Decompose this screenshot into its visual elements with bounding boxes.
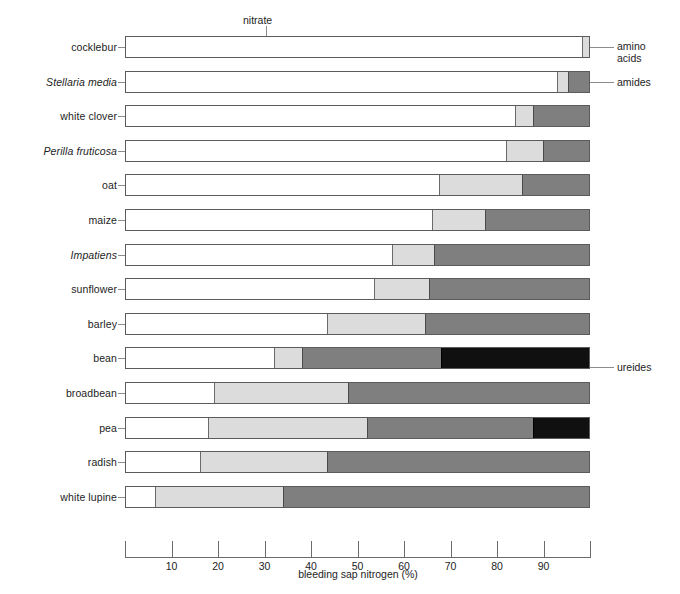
annotation-ureides-leader-line (590, 367, 614, 368)
stacked-bar (125, 244, 590, 266)
annotation-amides-label: amides (617, 76, 651, 88)
bar-segment-amides (434, 245, 589, 265)
bar-segment-nitrate (126, 37, 582, 57)
category-leader-line (118, 151, 125, 152)
bar-segment-amides (543, 141, 589, 161)
bar-segment-nitrate (126, 141, 506, 161)
bar-segment-nitrate (126, 452, 200, 472)
category-leader-line (118, 462, 125, 463)
chart-figure: nitrate amino acids amides ureides cockl… (0, 0, 680, 594)
category-label: maize (88, 214, 117, 226)
bar-segment-amino-acids (200, 452, 327, 472)
category-label: Stellaria media (46, 76, 117, 88)
category-leader-line (118, 116, 125, 117)
bar-segment-amides (522, 175, 589, 195)
category-leader-line (118, 289, 125, 290)
annotation-amino-acids-label: amino acids (617, 40, 646, 64)
bar-segment-nitrate (126, 487, 155, 507)
bar-segment-nitrate (126, 279, 374, 299)
bar-segment-amides (283, 487, 589, 507)
bar-segment-nitrate (126, 72, 557, 92)
bar-segment-nitrate (126, 210, 432, 230)
x-axis-tick (544, 541, 545, 557)
category-label: radish (88, 456, 117, 468)
bar-segment-amides (568, 72, 589, 92)
stacked-bar (125, 140, 590, 162)
x-axis-title: bleeding sap nitrogen (%) (208, 568, 508, 580)
stacked-bar (125, 36, 590, 58)
bar-segment-amino-acids (208, 418, 366, 438)
x-axis-tick-label: 10 (157, 560, 187, 572)
bar-segment-amides (367, 418, 534, 438)
bar-segment-nitrate (126, 348, 274, 368)
x-axis-tick (451, 541, 452, 557)
category-label: oat (102, 179, 117, 191)
bar-segment-nitrate (126, 314, 327, 334)
category-label: broadbean (66, 387, 117, 399)
bar-segment-amino-acids (515, 106, 534, 126)
bar-segment-amino-acids (155, 487, 284, 507)
bar-segment-amino-acids (327, 314, 424, 334)
x-axis-tick (218, 541, 219, 557)
stacked-bar (125, 174, 590, 196)
category-leader-line (118, 82, 125, 83)
stacked-bar (125, 417, 590, 439)
bar-segment-amides (429, 279, 589, 299)
stacked-bar (125, 313, 590, 335)
x-axis-tick (497, 541, 498, 557)
bar-segment-amino-acids (439, 175, 522, 195)
x-axis-tick (172, 541, 173, 557)
category-leader-line (118, 393, 125, 394)
bar-segment-amides (348, 383, 589, 403)
category-label: Impatiens (71, 249, 117, 261)
category-label: cocklebur (71, 41, 117, 53)
bar-segment-amino-acids (374, 279, 430, 299)
bar-segment-amino-acids (392, 245, 434, 265)
stacked-bar (125, 209, 590, 231)
category-label: pea (99, 422, 117, 434)
stacked-bar (125, 105, 590, 127)
bar-segment-amino-acids (274, 348, 302, 368)
bar-segment-ureides (441, 348, 589, 368)
stacked-bar (125, 451, 590, 473)
x-axis-end-tick (590, 541, 591, 558)
x-axis-tick-label: 90 (529, 560, 559, 572)
category-label: sunflower (71, 283, 117, 295)
bar-segment-nitrate (126, 175, 439, 195)
bar-segment-amides (485, 210, 589, 230)
x-axis-tick (311, 541, 312, 557)
bar-segment-nitrate (126, 418, 208, 438)
stacked-bar (125, 486, 590, 508)
category-label: bean (93, 352, 117, 364)
annotation-ureides-label: ureides (617, 361, 651, 373)
category-leader-line (118, 185, 125, 186)
annotation-amides-leader-line (590, 82, 614, 83)
category-leader-line (118, 358, 125, 359)
category-label: white clover (60, 110, 117, 122)
bar-segment-amides (533, 106, 589, 126)
bar-segment-nitrate (126, 106, 515, 126)
annotation-amino-acids-leader-line (590, 47, 614, 48)
category-leader-line (118, 255, 125, 256)
category-label: barley (88, 318, 117, 330)
x-axis-tick (265, 541, 266, 557)
category-label: Perilla fruticosa (44, 145, 117, 157)
bar-segment-amino-acids (214, 383, 348, 403)
stacked-bar (125, 347, 590, 369)
annotation-nitrate-label: nitrate (243, 14, 272, 26)
category-leader-line (118, 497, 125, 498)
bar-segment-amino-acids (582, 37, 589, 57)
category-leader-line (118, 428, 125, 429)
stacked-bar (125, 382, 590, 404)
category-label: white lupine (60, 491, 117, 503)
bar-segment-ureides (533, 418, 589, 438)
bar-segment-amino-acids (557, 72, 569, 92)
bar-segment-amino-acids (432, 210, 485, 230)
bar-segment-amides (425, 314, 589, 334)
bar-segment-amides (302, 348, 441, 368)
category-leader-line (118, 324, 125, 325)
category-leader-line (118, 47, 125, 48)
category-leader-line (118, 220, 125, 221)
bar-segment-nitrate (126, 245, 392, 265)
bar-segment-amino-acids (506, 141, 543, 161)
